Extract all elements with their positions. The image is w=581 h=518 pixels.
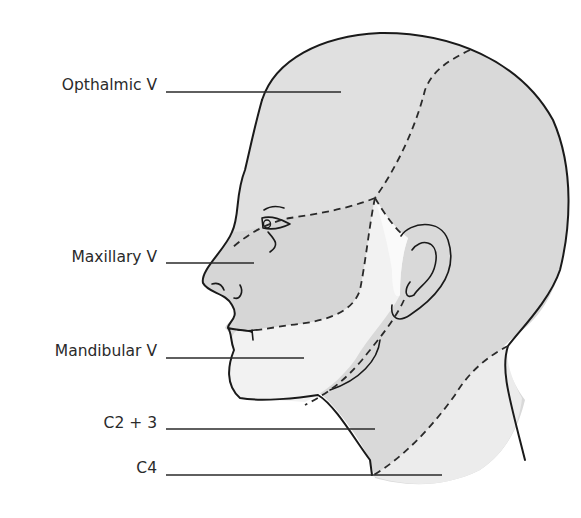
label-c4-text: C4 [136,459,157,477]
label-opthalmic-text: Opthalmic V [62,76,158,94]
label-c2-3: C2 + 3 [104,414,375,432]
label-maxillary-text: Maxillary V [71,248,157,266]
label-c2-3-text: C2 + 3 [104,414,157,432]
dermatome-diagram: Opthalmic V Maxillary V Mandibular V C2 … [0,0,581,518]
label-mandibular-text: Mandibular V [55,342,158,360]
